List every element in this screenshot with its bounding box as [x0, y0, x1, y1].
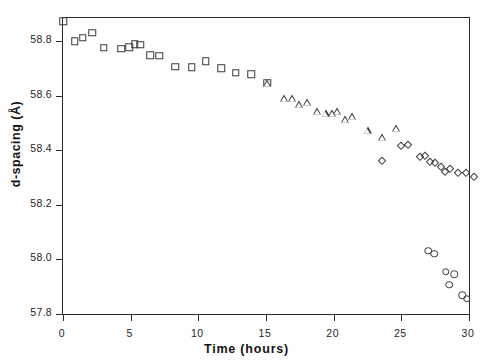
- x-axis-tick-label: 25: [394, 327, 407, 339]
- y-axis-tick: [56, 205, 63, 206]
- x-axis-tick: [63, 314, 64, 321]
- data-point-triangle: [263, 79, 271, 86]
- y-axis-tick: [56, 96, 63, 97]
- x-axis-tick-label: 15: [259, 327, 272, 339]
- y-axis-tick-label: 58.6: [8, 88, 52, 100]
- x-axis-tick: [401, 314, 402, 321]
- data-point-triangle: [303, 98, 311, 105]
- x-axis-tick: [334, 314, 335, 321]
- y-axis-tick-label: 57.8: [8, 306, 52, 318]
- data-point-square: [232, 69, 240, 77]
- y-axis-tick: [56, 150, 63, 151]
- data-point-diamond: [470, 172, 479, 181]
- y-axis-tick: [56, 259, 63, 260]
- data-point-square: [71, 37, 79, 45]
- data-point-square: [188, 63, 196, 71]
- data-point-circle: [450, 271, 458, 279]
- y-axis-tick: [56, 314, 63, 315]
- x-axis-tick: [469, 314, 470, 321]
- data-point-square: [88, 29, 96, 37]
- y-axis-tick-label: 58.4: [8, 142, 52, 154]
- x-axis-tick: [198, 314, 199, 321]
- data-point-triangle: [333, 108, 341, 115]
- data-point-circle: [463, 295, 471, 303]
- x-axis-tick-label: 20: [326, 327, 339, 339]
- data-point-diamond: [404, 141, 413, 150]
- data-point-square: [79, 34, 87, 42]
- x-axis-tick: [266, 314, 267, 321]
- data-point-square: [136, 41, 144, 49]
- data-point-square: [59, 18, 67, 26]
- y-axis-tick-label: 58.0: [8, 251, 52, 263]
- plot-frame: [62, 17, 470, 315]
- data-point-triangle: [392, 125, 400, 132]
- scatter-chart-figure: d-spacing (Å) Time (hours) 57.858.058.25…: [0, 0, 493, 363]
- data-point-square: [147, 52, 155, 60]
- data-point-circle: [431, 250, 439, 258]
- x-axis-tick: [131, 314, 132, 321]
- data-point-square: [202, 57, 210, 65]
- data-point-square: [100, 44, 108, 52]
- x-axis-title: Time (hours): [0, 342, 493, 356]
- data-point-diamond: [378, 157, 387, 166]
- data-point-square: [247, 71, 255, 79]
- x-axis-tick-label: 0: [59, 327, 65, 339]
- data-point-square: [218, 65, 226, 73]
- data-point-square: [155, 52, 163, 60]
- data-point-circle: [442, 268, 450, 276]
- data-points-layer: [63, 18, 469, 314]
- data-point-triangle: [348, 113, 356, 120]
- data-point-circle: [446, 281, 454, 289]
- data-point-triangle: [378, 133, 386, 140]
- data-point-triangle: [313, 107, 321, 114]
- x-axis-tick-label: 5: [126, 327, 132, 339]
- x-axis-tick-label: 30: [462, 327, 475, 339]
- y-axis-tick: [56, 41, 63, 42]
- y-axis-tick-label: 58.8: [8, 33, 52, 45]
- data-point-triangle: [364, 127, 372, 134]
- data-point-square: [172, 63, 180, 71]
- x-axis-tick-label: 10: [191, 327, 204, 339]
- data-point-square: [117, 45, 125, 53]
- y-axis-tick-label: 58.2: [8, 197, 52, 209]
